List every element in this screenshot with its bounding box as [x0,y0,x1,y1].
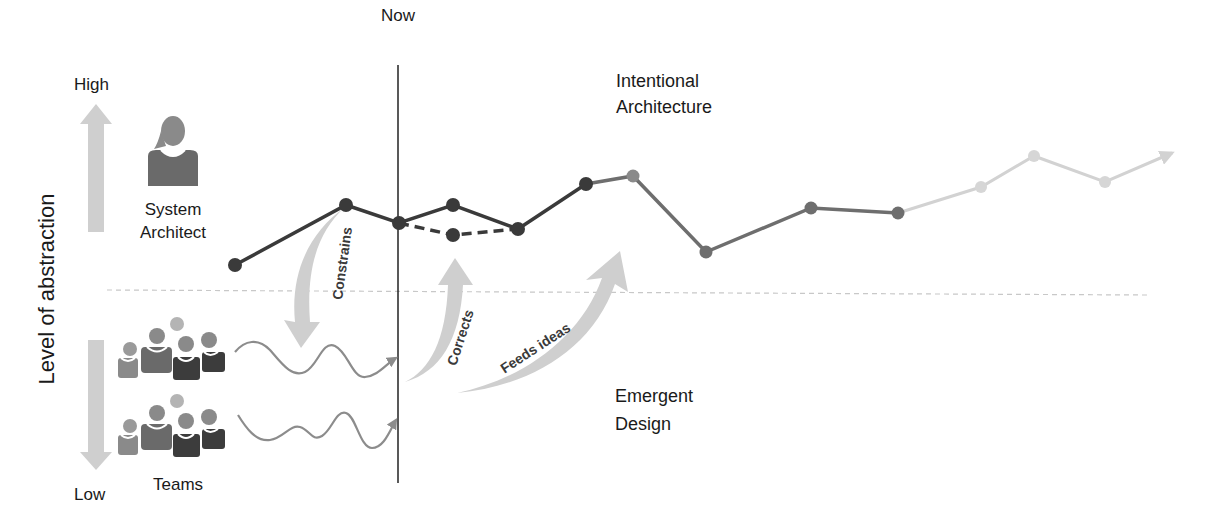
architecture-line-past [235,184,586,265]
arrow-up-icon [80,104,112,232]
feeds-ideas-arrow [457,251,628,393]
intentional-architecture-line2: Architecture [616,97,712,117]
intentional-architecture-line1: Intentional [616,71,699,91]
system-architect-label-line2: Architect [140,223,206,242]
architecture-line-future [898,153,1172,213]
constrains-label: Constrains [329,226,355,301]
abstraction-diagram: Level of abstraction High Low System Arc… [0,0,1214,527]
teams-label: Teams [153,475,203,494]
team-icon-group-1 [118,317,225,380]
past-nodes [228,177,593,272]
architecture-line-mid [586,176,898,252]
arrow-down-icon [80,340,112,470]
emergent-design-line2: Design [615,414,671,434]
high-label: High [74,75,109,94]
team-1-wave-arrow [235,342,396,377]
team-2-wave-arrow [238,413,396,448]
team-icon-group-2 [118,394,225,457]
now-label: Now [381,6,416,25]
y-axis-label: Level of abstraction [34,194,59,385]
low-label: Low [74,485,106,504]
system-architect-label-line1: System [145,200,202,219]
system-architect-icon [148,116,198,186]
emergent-design-line1: Emergent [615,386,693,406]
future-nodes [975,150,1111,193]
